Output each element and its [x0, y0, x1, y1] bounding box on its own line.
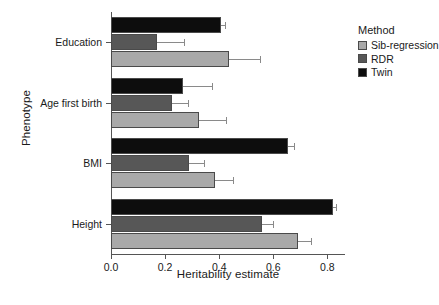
legend-swatch-icon	[358, 68, 367, 77]
legend-item: Twin	[358, 67, 439, 78]
error-bar-cap	[233, 177, 234, 184]
bar	[111, 172, 215, 188]
y-axis-title: Phenotype	[20, 48, 32, 188]
error-bar	[298, 241, 312, 242]
x-tick	[273, 255, 274, 259]
bar	[111, 138, 288, 154]
error-bar-cap	[188, 100, 189, 107]
error-bar	[189, 163, 204, 164]
y-tick-label: BMI	[83, 157, 102, 169]
error-bar-cap	[225, 22, 226, 29]
bar	[111, 112, 199, 128]
bar	[111, 233, 298, 249]
bar	[111, 155, 189, 171]
y-tick-label: Age first birth	[40, 97, 102, 109]
x-tick	[165, 255, 166, 259]
error-bar-cap	[204, 160, 205, 167]
x-tick	[219, 255, 220, 259]
error-bar	[157, 42, 184, 43]
legend: Method Sib-regressionRDRTwin	[358, 24, 439, 81]
bar	[111, 78, 183, 94]
error-bar-cap	[184, 39, 185, 46]
x-axis-line	[111, 254, 345, 255]
legend-item: RDR	[358, 54, 439, 65]
error-bar-cap	[212, 83, 213, 90]
legend-items: Sib-regressionRDRTwin	[358, 40, 439, 78]
error-bar	[183, 86, 213, 87]
legend-item: Sib-regression	[358, 40, 439, 51]
x-axis-title: Heritability estimate	[111, 268, 345, 280]
error-bar-cap	[260, 56, 261, 63]
error-bar	[199, 120, 226, 121]
error-bar	[229, 59, 260, 60]
y-tick-label: Height	[72, 218, 102, 230]
bar	[111, 34, 157, 50]
legend-swatch-icon	[358, 41, 367, 50]
error-bar-cap	[311, 238, 312, 245]
bar	[111, 95, 172, 111]
x-tick	[111, 255, 112, 259]
legend-swatch-icon	[358, 54, 367, 63]
error-bar	[262, 224, 273, 225]
bar	[111, 199, 333, 215]
error-bar	[172, 103, 188, 104]
error-bar	[215, 180, 233, 181]
error-bar-cap	[294, 143, 295, 150]
error-bar-cap	[273, 221, 274, 228]
legend-item-label: RDR	[371, 54, 394, 65]
bar	[111, 51, 229, 67]
legend-item-label: Twin	[371, 67, 393, 78]
bar	[111, 17, 221, 33]
error-bar-cap	[226, 117, 227, 124]
error-bar-cap	[336, 204, 337, 211]
plot-area: 0.00.20.40.60.8 EducationAge first birth…	[111, 12, 345, 254]
bar	[111, 216, 262, 232]
y-tick-label: Education	[55, 36, 102, 48]
x-tick	[327, 255, 328, 259]
legend-title: Method	[358, 24, 439, 36]
legend-item-label: Sib-regression	[371, 40, 439, 51]
